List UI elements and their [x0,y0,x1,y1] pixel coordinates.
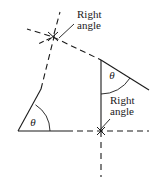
intersection-ray-lower-left [38,38,51,44]
theta-arc-left [36,105,51,131]
right-angle-label-top-line2: angle [77,20,101,31]
theta-label-right: θ [109,69,115,81]
right-angle-label-bottom-line2: angle [110,106,134,117]
intersection-ray-upper-right [54,12,60,34]
theta-label-left: θ [30,116,36,128]
theta-arc-right [101,78,130,94]
leader-line-top-label [59,24,74,38]
right-slanted-solid-line [101,60,149,90]
right-angle-label-bottom: Right angle [110,95,134,117]
intersection-ray-upper-left [27,29,50,36]
geometry-figure: θ θ Right angle Right angle [0,0,153,184]
transversal-dashed-line [53,37,101,60]
right-angle-label-top: Right angle [77,9,101,31]
